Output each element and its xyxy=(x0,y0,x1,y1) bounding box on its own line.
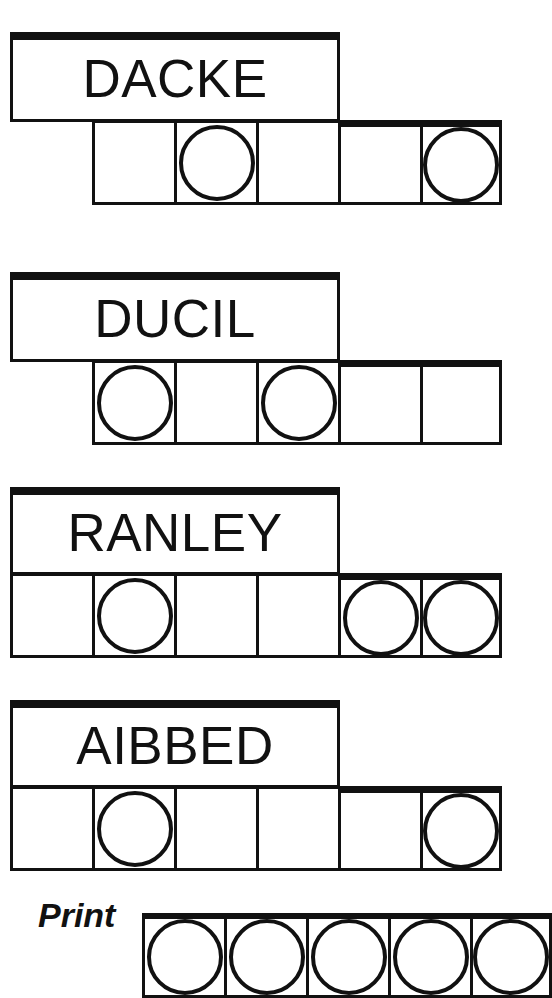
answer-cell-circled[interactable] xyxy=(92,786,174,871)
answer-cell-circled[interactable] xyxy=(92,573,174,658)
word-box: RANLEY xyxy=(10,487,340,575)
print-cell-row xyxy=(142,913,552,998)
word-label: DUCIL xyxy=(94,292,256,345)
word-box: DACKE xyxy=(10,32,340,122)
answer-cell-circled[interactable] xyxy=(92,360,174,445)
circle-marker xyxy=(261,365,337,441)
word-box: DUCIL xyxy=(10,272,340,362)
circle-marker xyxy=(97,365,173,441)
word-label: AIBBED xyxy=(76,719,273,772)
answer-cell-row xyxy=(92,120,502,205)
circle-marker xyxy=(423,580,499,656)
circle-marker xyxy=(423,127,499,203)
circle-marker xyxy=(423,793,499,869)
answer-cell-circled[interactable] xyxy=(420,120,502,205)
print-instruction-label: Print xyxy=(38,898,115,932)
answer-cell-empty[interactable] xyxy=(10,573,92,658)
answer-cell-row xyxy=(10,786,502,871)
word-box: AIBBED xyxy=(10,700,340,788)
answer-cell-empty[interactable] xyxy=(256,786,338,871)
print-cell-circled[interactable] xyxy=(142,913,224,998)
circle-marker xyxy=(473,919,549,995)
answer-cell-empty[interactable] xyxy=(256,573,338,658)
answer-cell-circled[interactable] xyxy=(420,786,502,871)
answer-cell-row xyxy=(10,573,502,658)
circle-marker xyxy=(229,919,305,995)
answer-cell-empty[interactable] xyxy=(338,120,420,205)
answer-cell-row xyxy=(92,360,502,445)
print-cell-circled[interactable] xyxy=(388,913,470,998)
answer-cell-empty[interactable] xyxy=(174,360,256,445)
word-label: DACKE xyxy=(82,52,267,105)
circle-marker xyxy=(179,125,255,201)
print-cell-circled[interactable] xyxy=(306,913,388,998)
answer-cell-circled[interactable] xyxy=(420,573,502,658)
answer-cell-circled[interactable] xyxy=(174,120,256,205)
answer-cell-empty[interactable] xyxy=(174,786,256,871)
print-cell-circled[interactable] xyxy=(470,913,552,998)
circle-marker xyxy=(147,919,223,995)
answer-cell-empty[interactable] xyxy=(256,120,338,205)
circle-marker xyxy=(97,791,173,867)
answer-cell-circled[interactable] xyxy=(256,360,338,445)
circle-marker xyxy=(393,919,469,995)
circle-marker xyxy=(343,580,419,656)
circle-marker xyxy=(311,919,387,995)
answer-cell-empty[interactable] xyxy=(10,786,92,871)
answer-cell-empty[interactable] xyxy=(92,120,174,205)
word-label: RANLEY xyxy=(67,506,282,559)
circle-marker xyxy=(97,578,173,654)
answer-cell-empty[interactable] xyxy=(420,360,502,445)
answer-cell-circled[interactable] xyxy=(338,573,420,658)
answer-cell-empty[interactable] xyxy=(338,360,420,445)
answer-cell-empty[interactable] xyxy=(174,573,256,658)
print-cell-circled[interactable] xyxy=(224,913,306,998)
answer-cell-empty[interactable] xyxy=(338,786,420,871)
